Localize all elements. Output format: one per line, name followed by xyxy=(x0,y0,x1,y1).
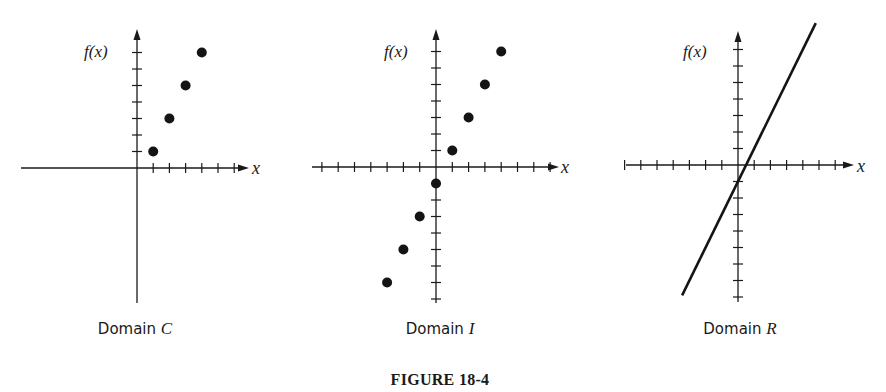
caption-text: Domain xyxy=(703,320,761,338)
data-point xyxy=(496,47,506,57)
x-axis-arrow-icon xyxy=(238,165,249,172)
data-point xyxy=(398,245,408,255)
function-line-segment xyxy=(682,23,816,295)
data-point xyxy=(382,278,392,288)
data-points xyxy=(148,48,207,157)
chart-panel-domain-i: f(x) x Domain I xyxy=(312,29,569,338)
x-axis-arrow-icon xyxy=(843,162,854,169)
figure-title: FIGURE 18-4 xyxy=(391,371,490,388)
chart-panel-domain-r: f(x) x Domain R xyxy=(625,23,865,338)
x-axis-label: x xyxy=(251,158,260,178)
y-axis-label: f(x) xyxy=(683,42,707,61)
figure-canvas: f(x) x Domain C f(x) x Domain I f(x) x D… xyxy=(0,0,886,392)
data-point xyxy=(197,48,207,58)
data-point xyxy=(464,113,474,123)
caption-text: Domain xyxy=(406,320,464,338)
panel-caption: Domain I xyxy=(406,319,476,338)
caption-domain-symbol: I xyxy=(468,319,476,338)
caption-text: Domain xyxy=(98,320,156,338)
caption-domain-symbol: R xyxy=(765,319,777,338)
caption-domain-symbol: C xyxy=(161,319,173,338)
x-axis-label: x xyxy=(856,156,865,176)
data-point xyxy=(447,146,457,156)
function-line xyxy=(682,23,816,295)
panel-caption: Domain C xyxy=(98,319,173,338)
data-point xyxy=(480,80,490,90)
y-axis-arrow-icon xyxy=(735,31,742,42)
y-axis-arrow-icon xyxy=(433,29,440,40)
axes xyxy=(21,29,249,303)
data-point xyxy=(181,81,191,91)
data-point xyxy=(148,147,158,157)
data-point xyxy=(164,114,174,124)
chart-panel-domain-c: f(x) x Domain C xyxy=(21,29,260,338)
axes xyxy=(625,31,854,302)
y-axis-arrow-icon xyxy=(134,29,141,40)
data-point xyxy=(415,212,425,222)
axes xyxy=(312,29,559,303)
y-axis-label: f(x) xyxy=(84,42,108,61)
y-axis-label: f(x) xyxy=(384,42,408,61)
x-axis-label: x xyxy=(560,157,569,177)
data-point xyxy=(431,179,441,189)
panel-caption: Domain R xyxy=(703,319,777,338)
